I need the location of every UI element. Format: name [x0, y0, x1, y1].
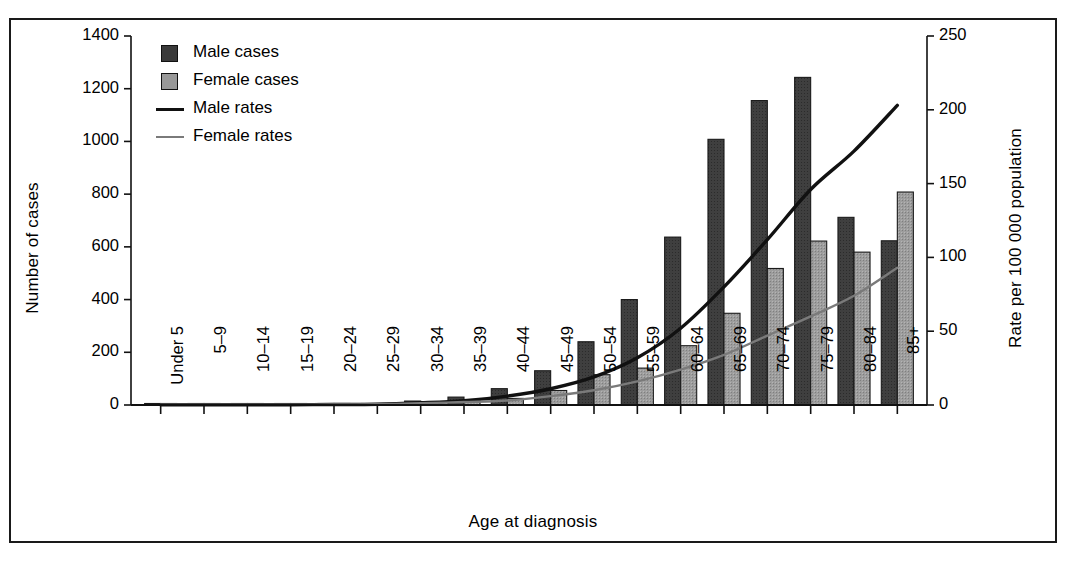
- legend-swatch-male-cases: [161, 45, 178, 62]
- x-axis-tick-label: 75–79: [818, 326, 837, 421]
- bar: [665, 237, 681, 405]
- x-axis-tick-label: 20–24: [341, 326, 360, 421]
- legend-label: Female cases: [193, 70, 299, 90]
- x-axis-tick-label: 55–59: [644, 326, 663, 421]
- x-axis-title: Age at diagnosis: [11, 512, 1055, 532]
- x-axis-tick-label: 85+: [904, 326, 923, 421]
- legend-swatch-female-cases: [161, 73, 178, 90]
- bar: [578, 342, 594, 405]
- x-axis-tick-label: 70–74: [774, 326, 793, 421]
- x-axis-tick-label: 5–9: [211, 326, 230, 421]
- legend-label: Male rates: [193, 98, 272, 118]
- x-axis-tick-label: Under 5: [168, 326, 187, 421]
- figure-container: 0200400600800100012001400 05010015020025…: [0, 0, 1069, 561]
- y-axis-left-tick-label: 200: [53, 341, 119, 360]
- y-axis-right-tick-label: 200: [939, 99, 967, 118]
- legend-line-female-rates: [156, 136, 184, 138]
- x-axis-tick-label: 45–49: [558, 326, 577, 421]
- y-axis-left-tick-label: 400: [53, 289, 119, 308]
- x-axis-tick-label: 30–34: [428, 326, 447, 421]
- y-axis-right-tick-label: 250: [939, 25, 967, 44]
- bar: [708, 139, 724, 405]
- x-axis-tick-label: 50–54: [601, 326, 620, 421]
- y-axis-left-tick-label: 800: [53, 183, 119, 202]
- y-axis-left-tick-label: 1400: [53, 25, 119, 44]
- legend-label: Female rates: [193, 126, 292, 146]
- x-axis-tick-label: 10–14: [254, 326, 273, 421]
- chart-plot-area: [11, 20, 1055, 541]
- chart-frame: 0200400600800100012001400 05010015020025…: [9, 18, 1057, 543]
- y-axis-right-tick-label: 50: [939, 320, 957, 339]
- y-axis-right-tick-label: 150: [939, 173, 967, 192]
- x-axis-tick-label: 15–19: [298, 326, 317, 421]
- legend-line-male-rates: [156, 108, 184, 111]
- bar: [838, 217, 854, 405]
- x-axis-tick-label: 35–39: [471, 326, 490, 421]
- x-axis-tick-label: 80–84: [861, 326, 880, 421]
- y-axis-right-tick-label: 0: [939, 394, 948, 413]
- y-axis-left-tick-label: 1000: [53, 130, 119, 149]
- y-axis-left-tick-label: 1200: [53, 78, 119, 97]
- legend-label: Male cases: [193, 42, 279, 62]
- y-axis-left-tick-label: 0: [53, 394, 119, 413]
- y-axis-right-title: Rate per 100 000 population: [1006, 88, 1026, 388]
- y-axis-right-tick-label: 100: [939, 246, 967, 265]
- x-axis-tick-label: 25–29: [384, 326, 403, 421]
- bar: [881, 241, 897, 405]
- x-axis-tick-label: 40–44: [514, 326, 533, 421]
- x-axis-tick-label: 60–64: [688, 326, 707, 421]
- x-axis-tick-label: 65–69: [731, 326, 750, 421]
- bar: [795, 77, 811, 405]
- bar: [621, 300, 637, 405]
- y-axis-left-tick-label: 600: [53, 236, 119, 255]
- y-axis-left-title: Number of cases: [23, 128, 43, 368]
